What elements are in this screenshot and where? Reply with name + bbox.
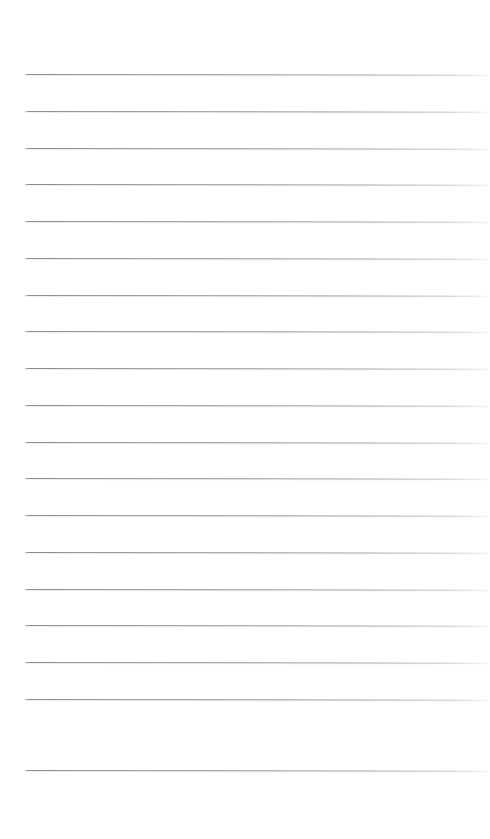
ruled-line (25, 148, 487, 150)
ruled-line (25, 405, 487, 407)
ruled-line (25, 295, 487, 297)
ruled-line (25, 662, 487, 664)
ruled-line (25, 552, 487, 554)
ruled-line (25, 331, 487, 333)
ruled-line (25, 515, 487, 517)
ruled-line (25, 258, 487, 260)
ruled-line (25, 184, 487, 186)
ruled-line (25, 368, 487, 370)
ruled-line-area (0, 0, 490, 839)
ruled-line (25, 699, 487, 701)
ruled-line (25, 111, 487, 113)
ruled-line (25, 589, 487, 591)
ruled-line (25, 478, 487, 480)
ruled-line (25, 74, 487, 76)
ruled-line (25, 221, 487, 223)
ruled-line (25, 770, 487, 772)
ruled-line (25, 442, 487, 444)
ruled-line (25, 625, 487, 627)
ruled-page (0, 0, 490, 839)
